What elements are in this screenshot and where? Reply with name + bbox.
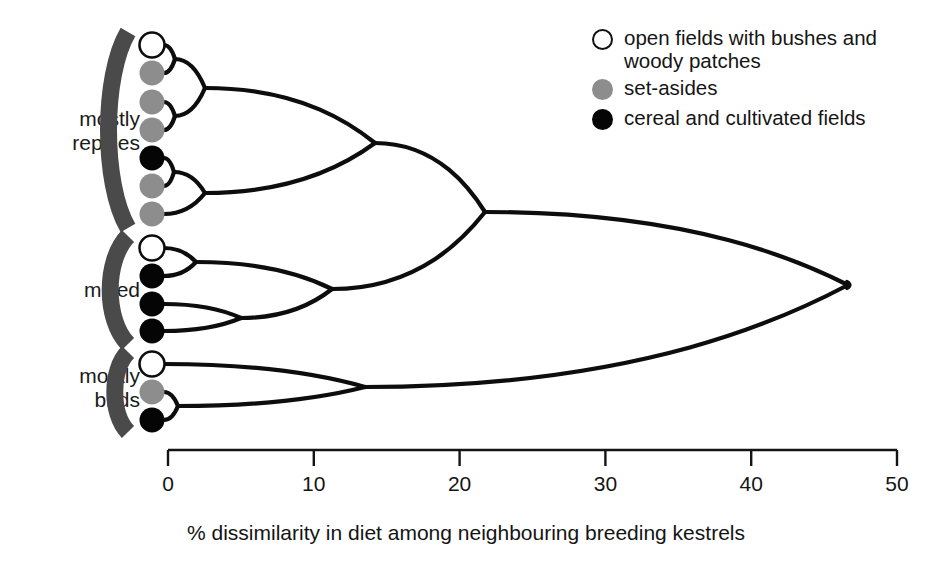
x-axis-tick-label: 40	[721, 472, 781, 496]
x-axis-title: % dissimilarity in diet among neighbouri…	[0, 521, 932, 545]
dendrogram-branch	[164, 193, 205, 214]
group-bracket	[115, 352, 128, 432]
tip-marker-t7	[140, 202, 165, 227]
legend-item-open-fields: open fields with bushes and woody patche…	[592, 26, 932, 73]
x-axis-tick-label: 10	[284, 472, 344, 496]
x-axis	[168, 450, 897, 466]
tip-marker-t9	[140, 264, 165, 289]
tip-marker-t14	[140, 408, 165, 433]
x-axis-tick-label: 50	[867, 472, 927, 496]
tip-marker-t4	[140, 118, 165, 143]
dendrogram-branch	[175, 59, 205, 88]
tip-marker-t12	[140, 352, 165, 377]
dendrogram-branch	[205, 88, 375, 143]
dendrogram-branch	[164, 364, 365, 387]
dendrogram-branch	[164, 116, 175, 130]
tip-marker-t11	[140, 319, 165, 344]
dendrogram-figure: mostly reptiles mixed mostly birds open …	[0, 0, 932, 570]
tip-marker-t10	[140, 292, 165, 317]
dendrogram-branch	[164, 45, 175, 59]
dendrogram-branch	[174, 172, 205, 193]
dendrogram-branch	[164, 262, 196, 276]
x-axis-tick-label: 30	[575, 472, 635, 496]
dendrogram-branch	[175, 88, 205, 116]
legend-label-set-asides: set-asides	[624, 76, 717, 99]
dendrogram-branch	[205, 143, 375, 193]
dendrogram-branch	[164, 102, 175, 116]
dendrogram-branch	[375, 143, 485, 212]
dendrogram-branch	[164, 406, 178, 420]
dendrogram-branch	[164, 392, 178, 406]
dendrogram-branch	[164, 248, 196, 262]
tip-marker-t1	[140, 33, 165, 58]
tip-marker-t3	[140, 90, 165, 115]
dendrogram-branch	[164, 59, 175, 73]
legend-label-cereal-fields: cereal and cultivated fields	[624, 106, 866, 129]
x-axis-tick-label: 0	[138, 472, 198, 496]
group-bracket	[109, 32, 129, 228]
legend-item-cereal-fields: cereal and cultivated fields	[592, 106, 932, 130]
tip-markers	[140, 33, 165, 433]
open-circle-icon	[592, 29, 613, 50]
group-bracket	[110, 236, 128, 344]
dendrogram-branch	[196, 262, 332, 289]
dendrogram-branch	[365, 285, 848, 387]
tip-marker-t8	[140, 236, 165, 261]
group-brackets	[109, 32, 129, 432]
dendrogram-branch	[164, 304, 241, 318]
tip-marker-t13	[140, 380, 165, 405]
legend-label-open-fields: open fields with bushes and woody patche…	[624, 26, 932, 73]
dendrogram-branch	[178, 387, 365, 406]
tip-marker-t2	[140, 61, 165, 86]
grey-circle-icon	[592, 79, 613, 100]
dendrogram-branch	[164, 172, 174, 186]
dendrogram-branch	[485, 212, 848, 285]
black-circle-icon	[592, 109, 613, 130]
legend-item-set-asides: set-asides	[592, 76, 932, 100]
dendrogram-branch	[332, 212, 485, 289]
tip-marker-t6	[140, 174, 165, 199]
dendrogram-branch	[164, 318, 241, 331]
legend: open fields with bushes and woody patche…	[592, 26, 932, 133]
dendrogram-branch	[241, 289, 332, 318]
dendrogram-branch	[164, 158, 174, 172]
tip-marker-t5	[140, 146, 165, 171]
x-axis-tick-label: 20	[430, 472, 490, 496]
